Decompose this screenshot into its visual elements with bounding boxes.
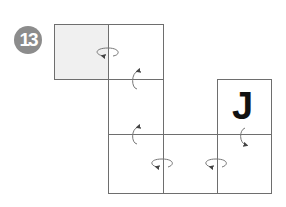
rotate-vertical-icon [133,127,138,144]
rotate-horizontal-icon [152,159,173,167]
rotate-horizontal-icon [206,159,227,167]
rotate-vertical-icon [241,128,246,145]
fold-arrows [0,0,286,207]
rotate-vertical-icon [133,71,138,89]
rotate-horizontal-icon [97,48,118,56]
